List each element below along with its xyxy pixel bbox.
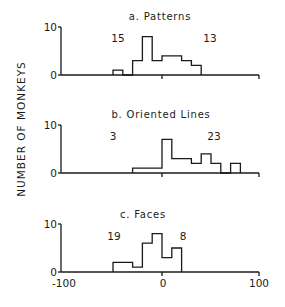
x-tick-labels: -100 0 100: [52, 277, 269, 289]
panel-a: a. Patterns 15 13 100: [44, 11, 259, 81]
x-tick-label: -100: [52, 277, 76, 289]
y-tick-label: 10: [44, 119, 57, 131]
panel-c: c. Faces 19 8 100: [44, 209, 259, 278]
x-tick-label: 0: [160, 277, 167, 289]
panel-title: a. Patterns: [129, 11, 191, 22]
right-count-label: 23: [207, 130, 220, 142]
histogram-outline: [113, 37, 201, 75]
panel-title: c. Faces: [120, 209, 166, 220]
histogram-outline: [113, 234, 182, 272]
histogram-outline: [133, 139, 241, 173]
y-tick-label: 0: [50, 69, 57, 81]
left-count-label: 19: [107, 230, 120, 242]
y-axis-label: NUMBER OF MONKEYS: [15, 61, 27, 197]
left-count-label: 3: [110, 130, 117, 142]
left-count-label: 15: [111, 32, 124, 44]
histogram-figure: NUMBER OF MONKEYS a. Patterns 15 13 100 …: [0, 0, 285, 307]
y-tick-label: 10: [44, 218, 57, 230]
panel-title: b. Oriented Lines: [111, 109, 210, 120]
y-tick-label: 10: [44, 21, 57, 33]
panel-b: b. Oriented Lines 3 23 100: [44, 109, 259, 179]
right-count-label: 13: [203, 32, 216, 44]
right-count-label: 8: [180, 230, 187, 242]
y-tick-label: 0: [50, 167, 57, 179]
x-tick-label: 100: [249, 277, 269, 289]
